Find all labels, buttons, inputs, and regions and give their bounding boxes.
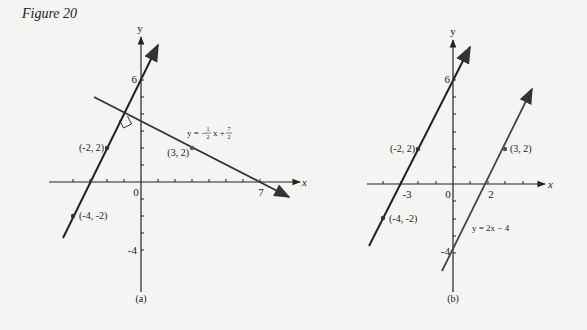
point-label-neg4-neg2: (-4, -2) <box>79 210 107 222</box>
y-tick-label-6: 6 <box>132 73 138 85</box>
point-neg2-2 <box>105 146 109 150</box>
figure-canvas: y x 0 6 -4 7 (-2, 2) (-4, -2) (3, 2) y =… <box>0 0 587 330</box>
x-tick-label-2: 2 <box>488 188 494 200</box>
svg-text:y = −: y = − <box>187 128 206 138</box>
panel-label-b: (b) <box>447 293 459 305</box>
svg-text:2: 2 <box>207 134 210 140</box>
x-axis-label: x <box>301 176 307 188</box>
svg-text:1: 1 <box>207 126 210 132</box>
line-y-2x-plus-6 <box>63 45 158 238</box>
point-neg4-neg2 <box>381 216 385 220</box>
point-label-3-2: (3, 2) <box>510 143 532 155</box>
point-label-neg4-neg2: (-4, -2) <box>389 213 417 225</box>
y-tick-label-6: 6 <box>445 73 451 85</box>
x-axis-label: x <box>547 178 553 190</box>
x-tick-label-neg3: -3 <box>402 188 412 200</box>
y-axis-label: y <box>137 22 143 34</box>
point-neg4-neg2 <box>71 214 75 218</box>
x-tick-label-7: 7 <box>258 186 264 198</box>
panel-b: y x 0 6 -4 -3 2 (-2, 2) (-4, -2) (3, 2) … <box>367 25 553 305</box>
point-label-neg2-2: (-2, 2) <box>79 142 104 154</box>
svg-text:7: 7 <box>228 126 231 132</box>
point-neg2-2 <box>416 147 420 151</box>
equation-label-b: y = 2x − 4 <box>472 223 510 233</box>
point-3-2 <box>503 147 507 151</box>
y-axis-label: y <box>450 25 456 37</box>
origin-label: 0 <box>445 188 451 200</box>
origin-label: 0 <box>133 186 139 198</box>
y-tick-label-neg4: -4 <box>128 244 138 256</box>
point-label-neg2-2: (-2, 2) <box>390 143 415 155</box>
point-label-3-2: (3, 2) <box>167 147 189 159</box>
y-tick-label-neg4: -4 <box>441 245 451 257</box>
equation-label-a: y = − 1 2 x + 7 2 <box>187 126 232 140</box>
svg-text:2: 2 <box>228 134 231 140</box>
panel-label-a: (a) <box>135 293 146 305</box>
line-y-2x-minus-4 <box>442 89 532 271</box>
point-3-2 <box>190 146 194 150</box>
svg-text:x +: x + <box>213 128 225 138</box>
panel-a: y x 0 6 -4 7 (-2, 2) (-4, -2) (3, 2) y =… <box>49 22 307 305</box>
